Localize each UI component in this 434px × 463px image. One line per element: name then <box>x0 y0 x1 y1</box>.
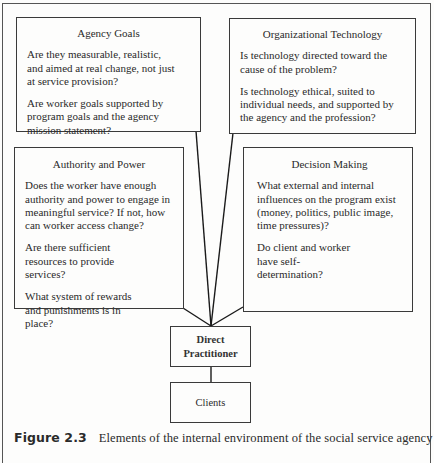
clients-box: Clients <box>170 382 251 423</box>
figure-caption-text: Elements of the internal environment of … <box>99 431 433 445</box>
organizational-technology-question-2: Is technology ethical, suited to individ… <box>240 85 405 125</box>
decision-making-question-2: Do client and worker have self-determina… <box>257 241 402 281</box>
decision-making-question-1: What external and internal influences on… <box>257 179 402 232</box>
connector-authority-power <box>183 308 211 326</box>
decision-making-box: Decision Making What external and intern… <box>243 147 413 312</box>
agency-goals-question-1: Are they measurable, realistic, and aime… <box>27 48 190 88</box>
authority-power-question-3: What system of rewards and punishments i… <box>25 290 173 330</box>
authority-power-title: Authority and Power <box>25 158 173 171</box>
figure-caption: Figure 2.3Elements of the internal envir… <box>14 430 433 446</box>
organizational-technology-box: Organizational Technology Is technology … <box>229 18 416 134</box>
organizational-technology-title: Organizational Technology <box>240 28 405 41</box>
figure-label: Figure 2.3 <box>14 430 87 445</box>
authority-power-box: Authority and Power Does the worker have… <box>14 147 184 309</box>
connector-decision-making <box>211 307 243 326</box>
agency-goals-box: Agency Goals Are they measurable, realis… <box>16 17 201 132</box>
connector-agency-goals <box>196 131 211 326</box>
authority-power-question-2: Are there sufficient resources to provid… <box>25 241 173 281</box>
decision-making-title: Decision Making <box>257 158 402 171</box>
agency-goals-title: Agency Goals <box>27 27 190 40</box>
direct-practitioner-label: Direct Practitioner <box>171 333 250 360</box>
agency-goals-question-2: Are worker goals supported by program go… <box>27 97 190 137</box>
direct-practitioner-box: Direct Practitioner <box>170 326 251 367</box>
connector-organizational-technology <box>211 133 233 326</box>
authority-power-question-1: Does the worker have enough authority an… <box>25 179 173 232</box>
clients-label: Clients <box>196 396 226 409</box>
organizational-technology-question-1: Is technology directed toward the cause … <box>240 49 405 76</box>
